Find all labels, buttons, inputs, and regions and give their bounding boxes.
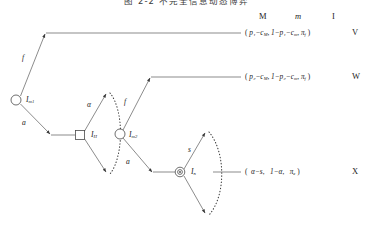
tree-nodes [11, 95, 185, 177]
branch-label-mid-a: a [126, 157, 130, 166]
payoff-vector-V: ( p₁−cM, 1−p₁−cm, πf ) [245, 28, 310, 37]
node-square [75, 130, 84, 139]
node-label-root: Im1 [26, 95, 34, 104]
outcome-label-V: V [352, 27, 358, 37]
node-label-square: IH [91, 130, 97, 139]
branch-label-mid-f: f [124, 97, 126, 106]
edge-mid-a [123, 138, 152, 172]
outcome-label-X: X [352, 166, 358, 176]
information-set-arcs [110, 93, 222, 215]
column-header-m: m [295, 11, 301, 21]
figure-canvas: 图 2-2 不完全信息动态博弈 [0, 0, 373, 235]
branch-label-square-alpha: α [87, 100, 91, 109]
info-arc-right [209, 132, 222, 215]
tree-edges [21, 33, 242, 213]
payoff-vector-X: ( α−s, 1−α, πe ) [245, 167, 300, 176]
edge-mid-f [123, 78, 150, 130]
edge-root-f [21, 34, 46, 96]
branch-label-root-a: a [22, 118, 26, 127]
node-label-double: In [191, 167, 196, 176]
node-mid-circle [115, 129, 125, 139]
branch-label-double-s: s [188, 145, 191, 154]
outcome-label-W: W [352, 71, 360, 81]
node-root-circle [11, 95, 21, 105]
branch-label-root-f: f [22, 53, 24, 62]
payoff-vector-W: ( p₂−cM, 1−p₂−cm, πf ) [245, 72, 310, 81]
edge-double-s-down [184, 176, 205, 213]
column-header-M: M [259, 11, 267, 21]
game-tree-graphic [0, 0, 373, 235]
column-header-I: I [332, 11, 335, 21]
node-label-mid: Im2 [129, 130, 137, 139]
edge-square-alpha-down [84, 138, 106, 172]
node-double-dot [179, 171, 181, 173]
